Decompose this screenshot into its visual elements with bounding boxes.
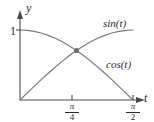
y-tick-label-1: 1 [10,25,16,37]
series-label-sin: sin(t) [103,18,126,29]
x-tick-label-pi-over-2: π 2 [126,102,140,122]
denominator: 4 [65,113,79,122]
y-axis-label: y [26,2,31,14]
y-axis [17,10,23,100]
x-tick-label-pi-over-4: π 4 [65,102,79,122]
denominator: 2 [126,113,140,122]
trig-functions-chart: y t 1 sin(t) cos(t) π 4 π 2 [0,0,154,122]
pi-numerator: π [126,102,140,111]
pi-numerator: π [65,102,79,111]
series-label-cos: cos(t) [106,59,131,70]
intersection-point-marker [74,48,79,53]
x-axis-label: t [144,92,147,104]
